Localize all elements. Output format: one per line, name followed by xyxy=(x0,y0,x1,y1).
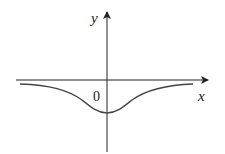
x-axis-label: x xyxy=(197,88,205,104)
origin-label: 0 xyxy=(93,89,100,104)
y-axis-label: y xyxy=(89,10,98,26)
graph-figure: y x 0 xyxy=(0,0,225,154)
